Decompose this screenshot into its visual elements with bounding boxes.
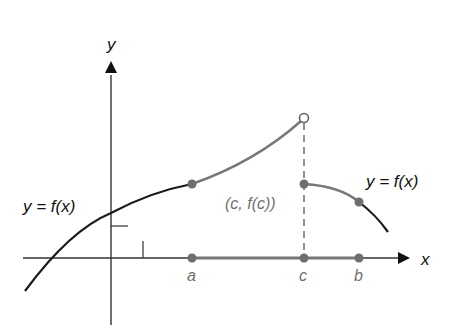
curve-a-to-c: [192, 121, 301, 184]
diagram-canvas: y x y = f(x) y = f(x) (c, f(c)) a c b: [0, 0, 466, 335]
right-function-label: y = f(x): [365, 172, 418, 191]
right-curve: [359, 202, 388, 232]
point-c: [300, 254, 309, 263]
point-f-b: [355, 198, 364, 207]
x-axis-label: x: [420, 250, 430, 269]
a-label: a: [187, 267, 196, 284]
y-axis-label: y: [106, 35, 117, 54]
point-open-c: [300, 114, 309, 123]
x-axis-arrow-icon: [398, 252, 410, 264]
c-label: c: [299, 267, 307, 284]
point-b: [355, 254, 364, 263]
y-axis-arrow-icon: [105, 61, 117, 73]
point-c-label: (c, f(c)): [225, 195, 276, 212]
curve-c-to-b: [304, 184, 359, 202]
point-f-a: [188, 180, 197, 189]
point-c-f-c: [300, 180, 309, 189]
left-function-label: y = f(x): [22, 197, 75, 216]
point-a: [188, 254, 197, 263]
b-label: b: [354, 267, 363, 284]
